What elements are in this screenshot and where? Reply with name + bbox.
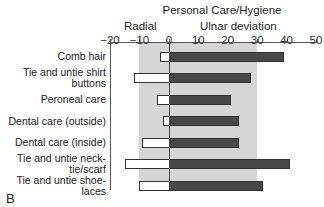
category-label-line: Dental care (inside) — [0, 137, 106, 148]
category-label: Dental care (inside) — [0, 137, 106, 148]
category-label: Comb hair — [0, 51, 106, 62]
category-label-line: Dental care (outside) — [0, 116, 106, 127]
category-label: Tie and untie neck-tie/scarf — [0, 153, 106, 175]
category-label-line: laces — [0, 186, 106, 197]
x-tick-label: 30 — [251, 34, 264, 46]
x-tick-label: −10 — [130, 34, 150, 46]
x-tick-label: 40 — [280, 34, 293, 46]
radial-bar — [142, 138, 169, 148]
ulnar-bar — [169, 95, 231, 105]
category-label-line: buttons — [0, 78, 106, 89]
zero-line — [169, 43, 170, 190]
panel-label: B — [6, 191, 15, 206]
category-label: Peroneal care — [0, 94, 106, 105]
x-tick-label: 10 — [192, 34, 205, 46]
category-label: Tie and untie shoe-laces — [0, 175, 106, 197]
category-label-line: Peroneal care — [0, 94, 106, 105]
category-label: Dental care (outside) — [0, 116, 106, 127]
chart-title: Personal Care/Hygiene — [140, 4, 304, 16]
category-label: Tie and untie shirtbuttons — [0, 67, 106, 89]
radial-bar — [134, 73, 170, 83]
ulnar-bar — [169, 181, 263, 191]
category-label-line: Comb hair — [0, 51, 106, 62]
ulnar-bar — [169, 159, 290, 169]
radial-bar — [125, 159, 170, 169]
x-tick-label: 50 — [310, 34, 323, 46]
ulnar-bar — [169, 52, 284, 62]
y-axis-line — [110, 42, 111, 190]
ulnar-bar — [169, 116, 240, 126]
ulnar-bar — [169, 73, 251, 83]
x-tick-label: −20 — [100, 34, 120, 46]
ulnar-bar — [169, 138, 240, 148]
radial-annotation: Radial — [124, 20, 157, 32]
category-label-line: Tie and untie shoe- — [0, 175, 106, 186]
x-tick-label: 20 — [221, 34, 234, 46]
ulnar-annotation: Ulnar deviation — [200, 20, 277, 32]
radial-bar — [139, 181, 169, 191]
